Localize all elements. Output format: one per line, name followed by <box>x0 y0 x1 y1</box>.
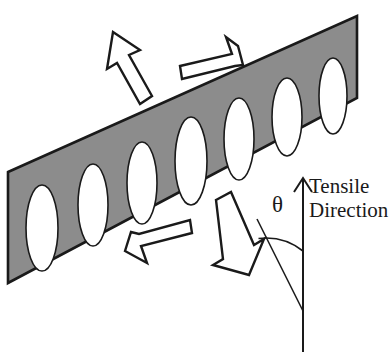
void-ellipse <box>26 185 58 271</box>
angle-arc <box>259 238 304 251</box>
void-ellipse <box>78 164 108 246</box>
tensile-direction-line-2: Direction <box>309 199 388 223</box>
shear-band-diagram: θ Tensile Direction <box>0 0 391 352</box>
tensile-direction-line-1: Tensile <box>309 175 388 199</box>
void-ellipse <box>319 58 347 134</box>
void-ellipse <box>127 142 157 224</box>
arrow-down-left-icon <box>125 220 192 263</box>
void-ellipse <box>224 98 254 180</box>
void-ellipse <box>272 78 302 156</box>
band-normal-reference-line <box>257 219 303 311</box>
arrow-up-left-icon <box>107 32 152 104</box>
angle-theta-label: θ <box>272 192 283 218</box>
tensile-direction-label: Tensile Direction <box>309 175 388 222</box>
arrow-down-right-icon <box>213 192 264 275</box>
void-ellipse <box>175 117 207 205</box>
